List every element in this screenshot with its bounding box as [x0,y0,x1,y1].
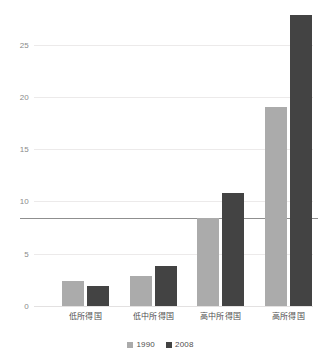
bar-chart: 0510152025 低所得国低中所得国高中所得国高所得国 19902008 [0,0,321,361]
x-axis-tick-label: 低所得国 [69,310,102,321]
y-axis-tick-label: 0 [24,302,29,311]
x-axis-tick-label: 低中所得国 [133,310,175,321]
bar-2008-2[interactable] [222,193,244,306]
chart-legend: 19902008 [0,340,321,349]
legend-item-2008[interactable]: 2008 [166,340,194,349]
bar-group [130,8,177,306]
x-axis-tick-label: 高中所得国 [200,310,242,321]
legend-swatch-icon [127,342,133,348]
y-axis-tick-label: 5 [24,249,29,258]
bar-2008-1[interactable] [155,266,177,306]
legend-label: 2008 [175,340,194,349]
x-axis-tick-label: 高所得国 [272,310,305,321]
bar-1990-0[interactable] [62,281,84,306]
bar-2008-0[interactable] [87,286,109,306]
bar-1990-1[interactable] [130,276,152,306]
legend-label: 1990 [136,340,155,349]
y-axis-tick-label: 10 [20,197,29,206]
legend-swatch-icon [166,342,172,348]
y-axis-tick-label: 15 [20,145,29,154]
bar-group [62,8,109,306]
bar-2008-3[interactable] [290,15,312,306]
legend-item-1990[interactable]: 1990 [127,340,155,349]
bar-1990-3[interactable] [265,107,287,306]
y-axis-tick-label: 25 [20,40,29,49]
bar-group [197,8,244,306]
gridline-0: 0 [34,306,313,307]
y-axis-tick-label: 20 [20,92,29,101]
bar-group [265,8,312,306]
bar-1990-2[interactable] [197,218,219,306]
plot-area: 0510152025 [34,8,313,306]
